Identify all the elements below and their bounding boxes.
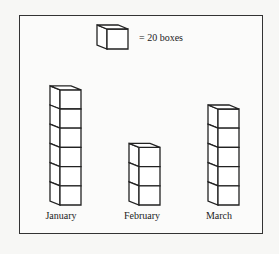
category-label-february: February	[112, 210, 172, 221]
category-label-january: January	[31, 210, 91, 221]
cube-stack-february	[129, 143, 160, 205]
legend-text: = 20 boxes	[139, 32, 183, 43]
cube-stack-march	[208, 105, 239, 205]
cube-icon	[97, 25, 128, 49]
category-label-march: March	[189, 210, 249, 221]
cube-stack-january	[50, 86, 81, 205]
